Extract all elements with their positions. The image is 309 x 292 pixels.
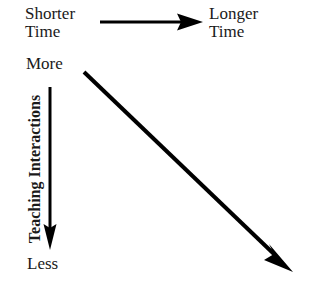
x-axis-start-label: Shorter Time	[25, 5, 75, 41]
interactions-axis-arrow-head	[44, 224, 57, 250]
y-axis-start-label: More	[26, 55, 63, 73]
interactions-axis-arrow	[44, 87, 57, 250]
y-axis-end-label: Less	[27, 255, 58, 273]
y-axis-title: Teaching Interactions	[26, 84, 44, 254]
time-axis-arrow	[100, 14, 203, 31]
trend-arrow-head	[264, 244, 293, 272]
diagram-canvas: Shorter Time Longer Time More Less Teach…	[0, 0, 309, 292]
time-axis-arrow-head	[177, 14, 203, 31]
arrows-layer	[0, 0, 309, 292]
x-axis-end-label: Longer Time	[209, 5, 258, 41]
trend-arrow-shaft	[84, 72, 275, 255]
trend-arrow	[84, 72, 293, 272]
